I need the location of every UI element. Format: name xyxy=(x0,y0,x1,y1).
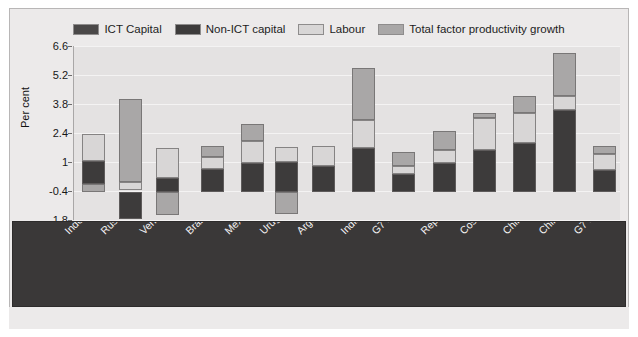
bar-segment[interactable] xyxy=(553,96,576,110)
x-axis-label: Chile b,IV xyxy=(500,221,541,236)
bar-segment[interactable] xyxy=(473,150,496,192)
legend-label-ict-capital: ICT Capital xyxy=(104,23,161,35)
bar-segment[interactable] xyxy=(473,113,496,118)
bar-segment[interactable] xyxy=(201,157,224,169)
bar-segment[interactable] xyxy=(119,99,142,182)
bar-segment[interactable] xyxy=(82,184,105,192)
y-tick-mark xyxy=(68,133,72,134)
bar-segment[interactable] xyxy=(433,163,456,192)
bar-segment[interactable] xyxy=(201,169,224,192)
bar-segment[interactable] xyxy=(82,134,105,161)
chart-legend: ICT Capital Non-ICT capital Labour Total… xyxy=(9,19,629,39)
bar-group[interactable] xyxy=(352,46,375,220)
bar-segment[interactable] xyxy=(241,163,264,192)
bar-group[interactable] xyxy=(156,46,179,220)
bar-segment[interactable] xyxy=(513,113,536,143)
bar-segment[interactable] xyxy=(352,120,375,148)
bar-group[interactable] xyxy=(433,46,456,220)
bar-group[interactable] xyxy=(275,46,298,220)
chart-root: ICT Capital Non-ICT capital Labour Total… xyxy=(0,0,638,337)
bar-segment[interactable] xyxy=(352,68,375,120)
y-tick-label: 3.8 xyxy=(53,98,68,110)
legend-item-labour[interactable]: Labour xyxy=(298,23,365,35)
legend-swatch-labour xyxy=(298,24,324,35)
bar-segment[interactable] xyxy=(392,174,415,192)
y-tick-mark xyxy=(68,162,72,163)
bar-segment[interactable] xyxy=(392,152,415,166)
y-tick-mark xyxy=(68,46,72,47)
x-axis-label: India a,I xyxy=(338,221,373,236)
legend-item-non-ict-capital[interactable]: Non-ICT capital xyxy=(175,23,286,35)
bar-segment[interactable] xyxy=(513,143,536,192)
bar-segment[interactable] xyxy=(119,182,142,190)
x-axis-label: Brazil b,II xyxy=(183,221,222,236)
bar-segment[interactable] xyxy=(241,141,264,163)
bar-segment[interactable] xyxy=(275,162,298,192)
bar-segment[interactable] xyxy=(433,150,456,163)
x-axis-label: China a,I xyxy=(536,221,574,236)
bar-group[interactable] xyxy=(201,46,224,220)
legend-swatch-ict-capital xyxy=(73,24,99,35)
bar-group[interactable] xyxy=(392,46,415,220)
bar-segment[interactable] xyxy=(156,192,179,215)
y-axis-ticks: 6.65.23.82.41-0.4-1.8 xyxy=(22,46,68,220)
y-tick-mark xyxy=(68,191,72,192)
bar-group[interactable] xyxy=(593,46,616,220)
y-tick-label: -0.4 xyxy=(49,185,68,197)
bar-group[interactable] xyxy=(553,46,576,220)
legend-label-non-ict-capital: Non-ICT capital xyxy=(206,23,286,35)
bar-segment[interactable] xyxy=(553,53,576,96)
bar-segment[interactable] xyxy=(513,96,536,113)
legend-swatch-tfp xyxy=(378,24,404,35)
bar-segment[interactable] xyxy=(352,148,375,192)
bar-segment[interactable] xyxy=(593,154,616,170)
bar-segment[interactable] xyxy=(473,118,496,150)
bar-group[interactable] xyxy=(82,46,105,220)
bar-segment[interactable] xyxy=(312,146,335,166)
y-tick-mark xyxy=(68,75,72,76)
x-axis-label: G7 average (1999-2003) a xyxy=(571,221,626,236)
bar-segment[interactable] xyxy=(593,146,616,154)
bar-group[interactable] xyxy=(473,46,496,220)
plot-area xyxy=(73,46,620,220)
x-axis-label-band: Indonesia a,IRussian Federation a,IVenez… xyxy=(12,221,626,307)
bar-segment[interactable] xyxy=(275,147,298,162)
y-tick-label: 5.2 xyxy=(53,69,68,81)
bar-segment[interactable] xyxy=(156,148,179,178)
bar-segment[interactable] xyxy=(82,161,105,184)
legend-item-tfp[interactable]: Total factor productivity growth xyxy=(378,23,564,35)
bar-segment[interactable] xyxy=(119,192,142,219)
legend-label-tfp: Total factor productivity growth xyxy=(409,23,564,35)
legend-item-ict-capital[interactable]: ICT Capital xyxy=(73,23,161,35)
y-tick-label: 2.4 xyxy=(53,127,68,139)
bar-segment[interactable] xyxy=(553,110,576,192)
bar-segment[interactable] xyxy=(392,166,415,174)
bar-group[interactable] xyxy=(119,46,142,220)
bar-group[interactable] xyxy=(241,46,264,220)
bar-segment[interactable] xyxy=(312,166,335,192)
bar-segment[interactable] xyxy=(275,192,298,214)
y-tick-mark xyxy=(68,104,72,105)
bar-segment[interactable] xyxy=(156,178,179,192)
bar-segment[interactable] xyxy=(593,170,616,192)
bar-segment[interactable] xyxy=(241,124,264,141)
legend-swatch-non-ict-capital xyxy=(175,24,201,35)
bar-segment[interactable] xyxy=(433,131,456,150)
x-axis-label: G7 average (1989-1995) a xyxy=(369,221,465,236)
y-tick-label: 6.6 xyxy=(53,40,68,52)
bar-group[interactable] xyxy=(513,46,536,220)
bar-segment[interactable] xyxy=(201,146,224,157)
legend-label-labour: Labour xyxy=(329,23,365,35)
bar-group[interactable] xyxy=(312,46,335,220)
chart-footer-strip xyxy=(9,307,629,329)
